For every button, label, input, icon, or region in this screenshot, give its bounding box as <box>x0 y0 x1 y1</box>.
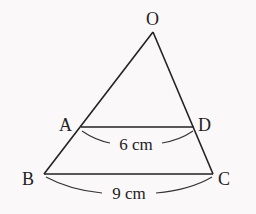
triangle-diagram: O A D B C 6 cm 9 cm <box>0 0 256 214</box>
label-b: B <box>22 169 34 189</box>
label-d: D <box>198 115 211 135</box>
measure-arc-bc-right <box>156 177 212 193</box>
segment-oc <box>153 32 213 174</box>
measure-arc-ad-right <box>162 131 193 143</box>
label-a: A <box>59 115 72 135</box>
measure-arc-ad-left <box>82 131 110 143</box>
measure-bc: 9 cm <box>112 184 146 203</box>
measure-ad: 6 cm <box>119 135 153 154</box>
measure-arc-bc-left <box>46 177 102 193</box>
label-c: C <box>218 169 230 189</box>
label-o: O <box>146 9 159 29</box>
